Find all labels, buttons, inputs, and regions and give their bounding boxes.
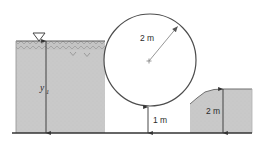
- radius-label: 2 m: [140, 33, 154, 43]
- right-step-label: 2 m: [206, 106, 220, 116]
- water-table-triangle-icon: [33, 33, 45, 41]
- left-depth-label: y: [39, 83, 45, 93]
- figure-container: 2 m y 1 1 m 2 m: [0, 0, 257, 145]
- left-depth-subscript: 1: [46, 88, 49, 95]
- right-soil-fill: [190, 89, 252, 133]
- bottom-gap-label: 1 m: [153, 115, 167, 125]
- bottom-gap-dimension: 1 m: [148, 107, 167, 133]
- diagram-canvas: 2 m y 1 1 m 2 m: [0, 0, 257, 145]
- left-soil-fill: [16, 41, 105, 133]
